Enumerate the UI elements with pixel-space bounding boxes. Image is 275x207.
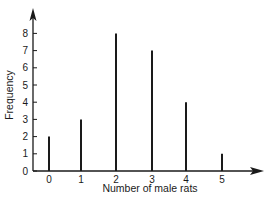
y-tick-label: 8 <box>22 28 28 39</box>
y-tick-label: 1 <box>22 148 28 159</box>
x-tick-label: 1 <box>78 174 84 185</box>
x-axis-label: Number of male rats <box>102 182 197 194</box>
y-tick-label: 2 <box>22 131 28 142</box>
y-tick-label: 6 <box>22 62 28 73</box>
y-tick-label: 3 <box>22 114 28 125</box>
y-tick-label: 5 <box>22 80 28 91</box>
axes <box>33 18 258 171</box>
bars <box>49 33 222 171</box>
x-tick-label: 0 <box>46 174 52 185</box>
y-tick-label: 0 <box>22 166 28 177</box>
frequency-chart: 012345678 012345 Number of male rats Fre… <box>0 0 275 207</box>
y-tick-label: 7 <box>22 45 28 56</box>
y-axis-label: Frequency <box>3 69 15 119</box>
x-tick-label: 5 <box>219 174 225 185</box>
y-tick-label: 4 <box>22 97 28 108</box>
y-ticks: 012345678 <box>22 28 37 177</box>
